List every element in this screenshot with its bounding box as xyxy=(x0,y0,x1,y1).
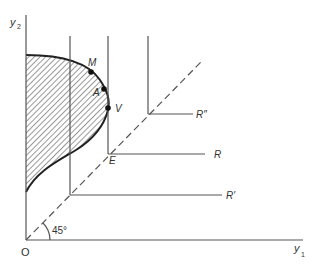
label-a: A xyxy=(92,87,100,98)
angle-label: 45° xyxy=(52,225,67,236)
y1-axis-subscript: 1 xyxy=(301,251,305,258)
label-r: R xyxy=(214,149,221,160)
angle-arc xyxy=(43,223,50,240)
label-r-double-prime: R″ xyxy=(196,109,207,120)
label-r-prime: R′ xyxy=(226,190,236,201)
point-a xyxy=(101,86,107,92)
y2-axis-subscript: 2 xyxy=(17,23,21,30)
point-v xyxy=(105,105,111,111)
label-v: V xyxy=(115,103,123,114)
point-m xyxy=(88,69,94,75)
diagram-canvas: y 2 y 1 O 45° M A V E R R′ R″ xyxy=(0,0,321,267)
label-e: E xyxy=(109,155,116,166)
y1-axis-label: y xyxy=(293,242,301,254)
origin-label: O xyxy=(21,246,30,258)
y2-axis-label: y xyxy=(9,16,17,28)
label-m: M xyxy=(88,57,97,68)
